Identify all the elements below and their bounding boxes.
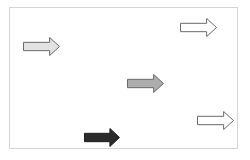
right-arrow-icon <box>197 111 234 130</box>
right-arrow-icon <box>84 128 120 147</box>
right-arrow-icon <box>23 37 60 56</box>
right-arrow-icon <box>127 74 164 93</box>
right-arrow-icon <box>180 18 217 37</box>
